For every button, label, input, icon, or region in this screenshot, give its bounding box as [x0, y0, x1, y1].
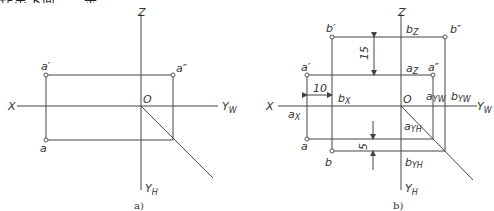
label-yh: YH	[145, 182, 158, 197]
point-b-side	[443, 35, 447, 39]
marker-ayh: aYH	[404, 120, 422, 134]
label-z: Z	[137, 6, 146, 19]
dimension-10-label: 10	[313, 82, 327, 95]
label-a-top: a	[40, 142, 47, 155]
marker-bz: bZ	[406, 23, 419, 37]
label-z: Z	[397, 6, 406, 19]
label-origin: O	[143, 93, 152, 106]
projection-diagrams: X Z O YW YH a′ a″ a a) 15 10 5	[0, 0, 494, 211]
label-a-side: a″	[176, 62, 188, 75]
label-yh: YH	[405, 182, 418, 197]
label-yw: YW	[222, 100, 238, 115]
diagram-b: 15 10 5 X Z O YW YH b′ b″ b a′ a″ a bZ a…	[265, 6, 493, 211]
label-a-front: a′	[41, 60, 51, 73]
label-b-front: b′	[326, 22, 336, 35]
label-a-top: a	[301, 140, 308, 153]
caption-a: a)	[134, 200, 144, 211]
label-x: X	[7, 100, 16, 113]
marker-az: aZ	[406, 62, 419, 76]
dimension-15-label: 15	[358, 46, 371, 60]
label-x: X	[265, 100, 274, 113]
label-a-front: a′	[301, 61, 311, 74]
marker-byh: bYH	[405, 156, 423, 170]
caption-b: b)	[393, 200, 403, 211]
marker-byw: bYW	[451, 90, 472, 104]
label-b-top: b	[325, 156, 332, 169]
diagonal-45-line	[141, 106, 213, 178]
point-b-top	[330, 149, 334, 153]
point-b-front	[330, 35, 334, 39]
label-origin: O	[403, 93, 412, 106]
marker-bx: bX	[338, 92, 351, 106]
label-b-side: b″	[450, 23, 462, 36]
point-a-side	[171, 73, 175, 77]
marker-ayw: aYW	[426, 90, 447, 104]
marker-ax: aX	[288, 108, 301, 122]
label-a-side: a″	[428, 61, 440, 74]
dimension-5-label: 5	[357, 143, 370, 150]
label-yw: YW	[477, 100, 493, 115]
point-a-front	[44, 73, 48, 77]
diagram-a: X Z O YW YH a′ a″ a a)	[7, 6, 238, 211]
